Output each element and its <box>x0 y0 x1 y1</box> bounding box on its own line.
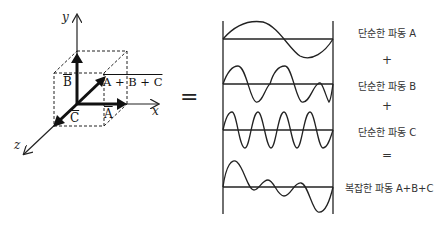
wave-frame <box>223 21 333 214</box>
equals-operator: = <box>382 148 392 162</box>
plus-operator-2: + <box>382 99 392 113</box>
vector-c-label: C <box>70 111 79 125</box>
wave-curves <box>223 22 333 213</box>
wave-label-combined: 복잡한 파동 A+B+C <box>345 180 434 195</box>
plus-operator-1: + <box>382 53 392 67</box>
vector-a-label: A <box>104 107 113 121</box>
wave-a <box>223 22 333 58</box>
vector-sum-label: A + B + C <box>103 75 162 89</box>
vector-b-label: B <box>63 75 72 89</box>
x-axis-label: x <box>152 104 159 118</box>
vectors <box>53 53 127 127</box>
z-axis-label: z <box>14 138 20 152</box>
equals-sign: = <box>180 84 198 109</box>
wave-label-c: 단순한 파동 C <box>358 124 416 139</box>
wave-label-b: 단순한 파동 B <box>358 78 416 93</box>
y-axis-label: y <box>62 10 69 24</box>
wave-label-a: 단순한 파동 A <box>358 25 416 40</box>
